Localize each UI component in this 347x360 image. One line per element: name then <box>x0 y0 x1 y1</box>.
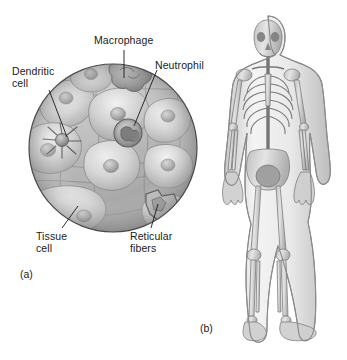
panel-b-tag: (b) <box>200 322 213 334</box>
panel-a-tag: (a) <box>20 268 33 280</box>
label-dendritic-cell: Dendritic cell <box>12 66 54 89</box>
human-body-illustration <box>190 0 347 360</box>
label-macrophage: Macrophage <box>94 35 153 47</box>
figure-root: Macrophage Neutrophil Dendritic cell Tis… <box>0 0 347 360</box>
panel-a-tissue-view: Macrophage Neutrophil Dendritic cell Tis… <box>0 0 200 300</box>
panel-b-body-view: (b) <box>190 0 347 360</box>
label-reticular-fibers: Reticular fibers <box>130 231 172 254</box>
label-tissue-cell: Tissue cell <box>36 231 67 254</box>
